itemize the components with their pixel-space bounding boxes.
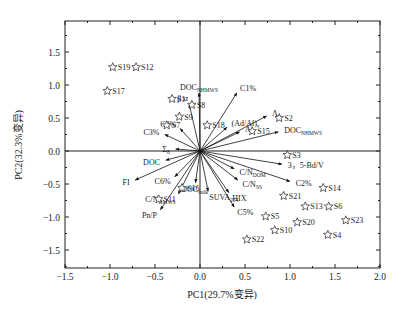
sample-label: S5 xyxy=(271,212,279,221)
sample-label: S2 xyxy=(284,114,292,123)
sample-label: S10 xyxy=(280,226,292,235)
x-axis-label: PC1(29.7%变异) xyxy=(187,288,257,301)
sample-point: S12 xyxy=(132,63,154,73)
y-axis-label: PC2(32.3%变异) xyxy=(12,110,25,180)
loading-label: C2% xyxy=(296,179,312,188)
loading-label: FI xyxy=(123,178,130,187)
sample-label: S16 xyxy=(187,184,199,193)
loading-label: C3% xyxy=(143,128,159,137)
x-tick-label: 0.0 xyxy=(194,272,206,282)
sample-point: S22 xyxy=(243,235,265,245)
sample-label: S15 xyxy=(257,127,269,136)
sample-label: S20 xyxy=(302,218,314,227)
sample-label: S21 xyxy=(289,192,301,201)
x-tick-label: 2.0 xyxy=(374,272,386,282)
loading-label: Pn/P xyxy=(142,211,158,220)
loading-label: Σ8 xyxy=(162,145,170,155)
sample-label: S14 xyxy=(328,184,340,193)
x-tick-label: −0.5 xyxy=(146,272,163,282)
sample-point: S20 xyxy=(293,218,315,228)
loading-label: 3，5-Bd/V xyxy=(288,161,324,170)
y-tick-label: 0.5 xyxy=(48,114,60,124)
y-tick-label: −0.5 xyxy=(43,180,60,190)
loading-label: C6% xyxy=(155,177,171,186)
loading-label: C/NSS xyxy=(243,180,262,190)
loading-label: DOCNHMWS xyxy=(180,83,218,93)
sample-point: S4 xyxy=(324,230,342,240)
x-tick-label: −1.5 xyxy=(56,272,73,282)
y-tick-label: −1.0 xyxy=(43,213,60,223)
loading-label: C5% xyxy=(237,208,253,217)
sample-label: S7 xyxy=(172,121,180,130)
sample-point: S18 xyxy=(203,121,225,130)
sample-label: S18 xyxy=(212,121,224,130)
sample-point: S1 xyxy=(168,94,186,104)
sample-point: S19 xyxy=(108,63,130,73)
x-tick-label: 1.5 xyxy=(329,272,341,282)
sample-point: S21 xyxy=(279,191,301,201)
sample-point: S14 xyxy=(319,183,341,193)
sample-label: S23 xyxy=(351,216,363,225)
sample-point: S13 xyxy=(301,202,323,212)
sample-label: S19 xyxy=(118,63,130,72)
x-tick-label: 1.0 xyxy=(284,272,296,282)
sample-point: S6 xyxy=(324,202,342,212)
sample-point: S5 xyxy=(261,212,279,222)
sample-point: S3 xyxy=(283,150,301,160)
sample-label: S11 xyxy=(164,195,176,204)
sample-point: S9 xyxy=(175,112,193,122)
sample-label: S13 xyxy=(310,202,322,211)
sample-label: S8 xyxy=(197,101,205,110)
loading-label: DOC xyxy=(143,158,160,167)
loading-label: C1% xyxy=(240,84,256,93)
y-tick-label: 1.0 xyxy=(48,81,60,91)
sample-label: S17 xyxy=(112,87,124,96)
sample-label: S12 xyxy=(141,63,153,72)
sample-label: S9 xyxy=(184,113,192,122)
sample-label: S3 xyxy=(292,151,300,160)
sample-point: S23 xyxy=(342,216,364,226)
sample-label: S4 xyxy=(333,231,341,240)
x-tick-label: 0.5 xyxy=(239,272,251,282)
sample-label: S6 xyxy=(334,202,342,211)
y-tick-label: 0.0 xyxy=(48,147,60,157)
loading-label: HIX xyxy=(232,194,246,203)
sample-point: S17 xyxy=(103,86,125,96)
sample-label: S1 xyxy=(177,95,185,104)
y-tick-label: −1.5 xyxy=(43,246,60,256)
sample-point: S10 xyxy=(270,226,292,236)
loading-label: DOCNHMWS xyxy=(284,126,322,136)
x-tick-label: −1.0 xyxy=(101,272,118,282)
pca-biplot: −1.5−1.0−0.50.00.51.01.52.0 −1.5−1.0−0.5… xyxy=(0,0,406,315)
y-tick-label: 1.5 xyxy=(48,48,60,58)
sample-label: S22 xyxy=(252,235,264,244)
